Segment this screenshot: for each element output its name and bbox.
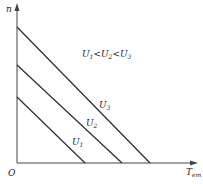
characteristic-plot: n O Tem U1 U2 U3 U1<U2<U3	[0, 0, 203, 184]
x-axis-arrow-icon	[190, 161, 198, 166]
curve-u1-label: U1	[72, 137, 83, 148]
curve-u3	[17, 27, 150, 163]
x-axis-label: Tem	[186, 167, 202, 178]
curve-u3-label: U3	[99, 100, 111, 111]
curve-u1	[17, 97, 85, 163]
voltage-order-annotation: U1<U2<U3	[82, 49, 132, 60]
diagram-canvas: n O Tem U1 U2 U3 U1<U2<U3	[0, 0, 203, 184]
y-axis-arrow-icon	[15, 3, 20, 11]
curve-u2-label: U2	[86, 118, 98, 129]
y-axis-label: n	[6, 4, 12, 14]
origin-label: O	[8, 168, 16, 178]
